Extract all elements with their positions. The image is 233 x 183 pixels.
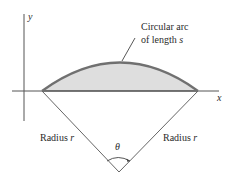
radius-right-label: Radius r	[163, 132, 197, 143]
radius-left-label: Radius r	[40, 132, 74, 143]
arc-label-pointer	[122, 38, 135, 61]
radius-left-prefix: Radius	[40, 132, 70, 143]
circular-segment-diagram: y x Circular arc of length s Radius r Ra…	[0, 0, 233, 183]
theta-label: θ	[115, 141, 120, 152]
arc-label-line2: of length s	[141, 34, 183, 45]
radius-right-var: r	[193, 132, 197, 143]
radius-left-var: r	[70, 132, 74, 143]
arc-label-prefix: of length	[141, 34, 179, 45]
radius-right-prefix: Radius	[163, 132, 193, 143]
y-axis-label: y	[27, 11, 33, 22]
theta-angle-arc	[107, 158, 130, 162]
arc-length-var: s	[179, 34, 183, 45]
x-axis-label: x	[216, 92, 222, 103]
arc-label-line1: Circular arc	[141, 21, 189, 32]
